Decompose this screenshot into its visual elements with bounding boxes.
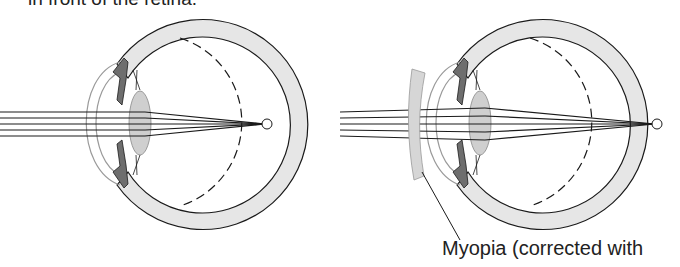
right-eye	[340, 20, 662, 241]
right-iris-bottom	[453, 140, 468, 188]
right-focal-point	[652, 119, 662, 129]
right-light-rays	[340, 108, 655, 140]
left-eye	[0, 16, 313, 232]
right-lens	[469, 91, 491, 155]
right-retina	[530, 38, 592, 206]
right-iris-top	[453, 58, 468, 105]
left-lens	[129, 91, 151, 155]
left-iris-bottom	[113, 140, 128, 188]
eye-diagrams	[0, 0, 680, 267]
bottom-caption: Myopia (corrected with	[442, 237, 643, 260]
left-focal-point	[262, 119, 272, 129]
